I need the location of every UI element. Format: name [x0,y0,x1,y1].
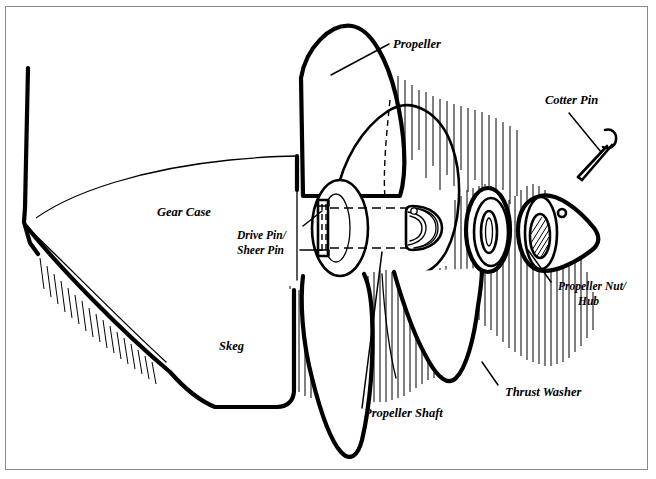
leader-cotter-pin [569,113,601,152]
propeller-blade-lower-right [394,268,482,381]
label-gear-case: Gear Case [157,205,211,219]
cotter-pin-leg-1 [578,146,607,177]
cotter-pin-tip [578,177,582,180]
label-thrust-washer: Thrust Washer [505,385,581,399]
leader-thrust-washer [482,362,498,385]
propeller-nut-hub [518,195,598,271]
diagram-page: Propeller Cotter Pin Gear Case Drive Pin… [0,0,656,479]
cotter-pin [578,130,616,180]
propeller-nut-cotter-hole [558,209,566,217]
label-propeller: Propeller [393,37,441,51]
propeller-blade-lower [302,274,373,457]
hatch-upper-right [398,76,517,204]
shaft-cotter-pin-hole [411,208,417,214]
label-hub: Hub [577,295,599,307]
propeller-hub-assembly [312,180,368,276]
label-drive-pin: Drive Pin/ [236,229,288,241]
label-propeller-nut: Propeller Nut/ [558,280,628,293]
propeller-blade-lower-inner [382,274,396,378]
label-cotter-pin: Cotter Pin [545,93,598,107]
cotter-pin-loop [603,130,616,149]
label-propeller-shaft: Propeller Shaft [364,406,443,420]
label-skeg: Skeg [219,339,244,353]
cotter-pin-leg-2 [582,145,612,180]
thrust-washer-bore-inner [486,218,493,246]
thrust-washer [466,188,510,272]
propeller-assembly-diagram: Propeller Cotter Pin Gear Case Drive Pin… [0,0,656,479]
label-sheer-pin: Sheer Pin [237,244,284,256]
